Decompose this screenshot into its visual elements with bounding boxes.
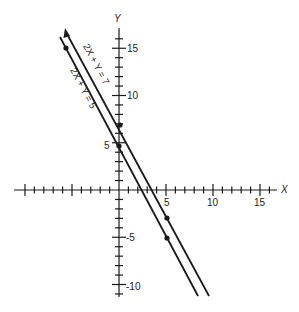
- y-tick-label-5: 5: [104, 140, 110, 151]
- y-tick-label-minus5: -5: [126, 232, 135, 243]
- point-5-minus3: [164, 215, 169, 220]
- point-5-minus5: [164, 235, 169, 240]
- point-0-7: [117, 122, 122, 127]
- point-0-5: [116, 143, 121, 148]
- y-tick-label-10: 10: [127, 90, 139, 101]
- x-axis: [14, 184, 277, 196]
- y-axis-label: Y: [114, 13, 122, 24]
- y-axis: [112, 28, 126, 297]
- line-label-5: 2X + Y = 5: [68, 66, 99, 111]
- y-tick-label-15: 15: [127, 43, 139, 54]
- x-tick-label-10: 10: [207, 197, 219, 208]
- x-tick-label-5: 5: [164, 197, 170, 208]
- line-2x-plus-y-eq-7: [64, 28, 210, 296]
- y-tick-label-minus10: -10: [126, 281, 141, 292]
- x-axis-label: X: [280, 184, 288, 195]
- line-graph: 5 10 15 15 10 5 -5 -10 X Y 2X + Y = 7 2X…: [0, 0, 299, 312]
- x-tick-label-15: 15: [254, 197, 266, 208]
- point-minus5-15: [63, 45, 68, 50]
